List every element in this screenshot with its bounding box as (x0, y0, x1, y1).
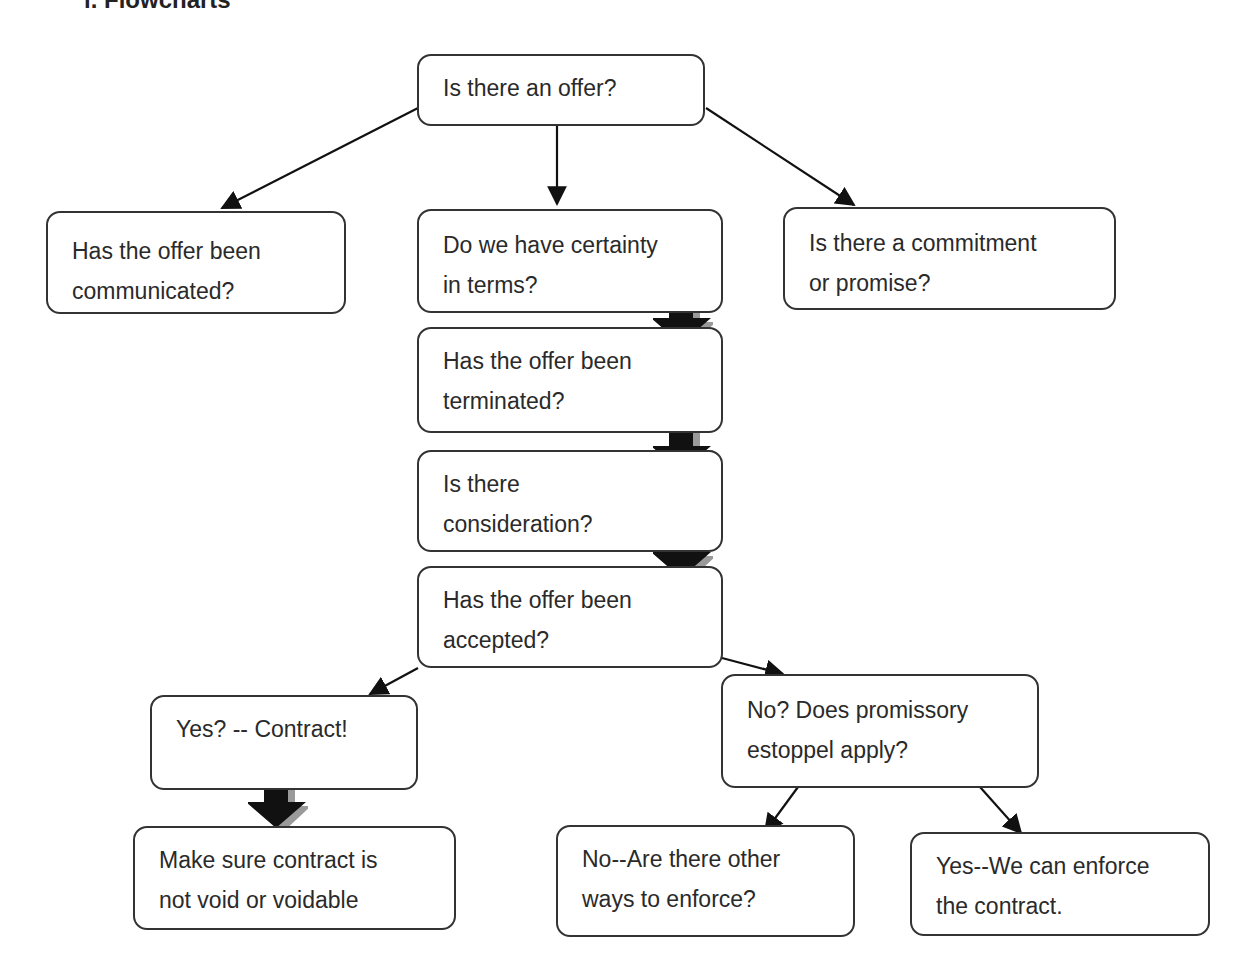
node-yes-contract: Yes? -- Contract! (150, 695, 418, 790)
node-text: Yes? -- Contract! (176, 709, 392, 749)
node-text: Has the offer been (72, 231, 320, 271)
node-other-ways-to-enforce: No--Are there other ways to enforce? (556, 825, 855, 937)
node-text: No? Does promissory (747, 690, 1013, 730)
node-text: not void or voidable (159, 880, 430, 920)
node-text: Is there (443, 464, 697, 504)
section-heading: i. Flowcharts (84, 0, 231, 14)
node-text: accepted? (443, 620, 697, 660)
node-text: Yes--We can enforce (936, 846, 1184, 886)
node-text: ways to enforce? (582, 879, 829, 919)
node-text: or promise? (809, 263, 1090, 303)
node-text: Has the offer been (443, 580, 697, 620)
node-promissory-estoppel: No? Does promissory estoppel apply? (721, 674, 1039, 788)
node-text: Do we have certainty (443, 225, 697, 265)
node-void-or-voidable: Make sure contract is not void or voidab… (133, 826, 456, 930)
node-is-there-an-offer: Is there an offer? (417, 54, 705, 126)
node-commitment-or-promise: Is there a commitment or promise? (783, 207, 1116, 310)
node-text: Make sure contract is (159, 840, 430, 880)
node-offer-accepted: Has the offer been accepted? (417, 566, 723, 668)
node-text: terminated? (443, 381, 697, 421)
node-text: Is there a commitment (809, 223, 1090, 263)
node-text: communicated? (72, 271, 320, 311)
node-text: consideration? (443, 504, 697, 544)
node-consideration: Is there consideration? (417, 450, 723, 552)
node-text: estoppel apply? (747, 730, 1013, 770)
node-text: Is there an offer? (443, 68, 679, 108)
node-text: No--Are there other (582, 839, 829, 879)
node-can-enforce-contract: Yes--We can enforce the contract. (910, 832, 1210, 936)
node-offer-communicated: Has the offer been communicated? (46, 211, 346, 314)
node-certainty-in-terms: Do we have certainty in terms? (417, 209, 723, 313)
node-offer-terminated: Has the offer been terminated? (417, 327, 723, 433)
node-text: Has the offer been (443, 341, 697, 381)
node-text: in terms? (443, 265, 697, 305)
node-text: the contract. (936, 886, 1184, 926)
